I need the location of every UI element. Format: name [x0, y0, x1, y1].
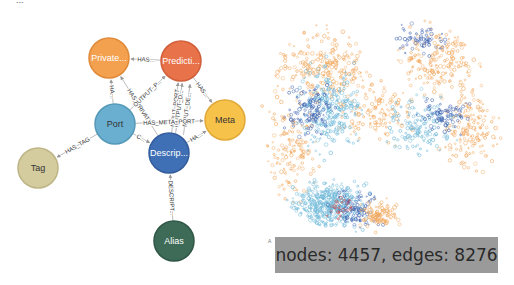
- node-private[interactable]: Private...: [89, 38, 129, 78]
- corner-marker: A: [268, 238, 271, 244]
- schema-edges: HAS...HAS...HA...HA...HAS_PRIVATEHAS_PRI…: [57, 56, 212, 221]
- edge-label: HAS_TAG: [64, 136, 91, 155]
- edge-label: HAS...: [137, 56, 155, 63]
- node-port[interactable]: Port: [95, 104, 135, 144]
- node-label: Private...: [91, 53, 127, 63]
- edge-label: DESCRIPT...: [168, 181, 176, 216]
- edge-label: HAS...: [195, 81, 210, 99]
- node-label: Meta: [215, 115, 235, 125]
- node-meta[interactable]: Meta: [205, 100, 245, 140]
- node-label: Descrip...: [150, 148, 188, 158]
- edge-label: HA...: [189, 131, 204, 143]
- edge-label: OUTPUT_P...: [132, 78, 163, 108]
- node-description[interactable]: Descrip...: [149, 133, 189, 173]
- schema-graph: HAS...HAS...HA...HA...HAS_PRIVATEHAS_PRI…: [0, 0, 260, 285]
- edge-label: HA...: [108, 85, 115, 99]
- node-prediction[interactable]: Predicti...: [161, 41, 201, 81]
- node-alias[interactable]: Alias: [154, 221, 194, 261]
- node-label: Tag: [31, 163, 46, 173]
- graph-stats-label: nodes: 4457, edges: 8276: [275, 237, 498, 273]
- node-tag[interactable]: Tag: [18, 148, 58, 188]
- node-label: Alias: [164, 236, 184, 246]
- schema-nodes: Private...Predicti...MetaPortDescrip...T…: [18, 38, 245, 261]
- node-label: Predicti...: [162, 56, 200, 66]
- node-label: Port: [107, 119, 124, 129]
- edge-label: C...: [136, 133, 147, 143]
